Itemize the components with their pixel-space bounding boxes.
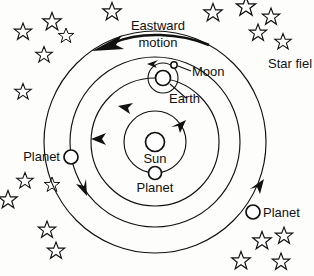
arrow-outer-left-orbit [76,179,87,196]
label-moon: Moon [192,64,225,79]
star [15,84,31,99]
star [58,28,74,42]
bodies-group [64,62,260,219]
star [272,253,289,269]
label-sun: Sun [143,151,166,166]
label-planet-inner: Planet [137,180,174,195]
star [43,13,61,30]
sun-body [146,133,165,152]
moon-leader-line [178,66,191,71]
diagram-canvas: Eastward motion Star fiel Moon Earth Sun… [0,0,314,276]
star [275,227,292,243]
planet-left-body [64,150,78,164]
labels-group: Eastward motion Star fiel Moon Earth Sun… [23,18,312,220]
star [103,2,121,19]
label-eastward: Eastward [131,18,185,33]
eastward-arrowhead [92,35,124,51]
star [14,23,31,39]
star [47,242,64,258]
planet-inner-body [149,167,162,180]
arrow-earth-orbit-upper [118,103,133,114]
label-earth: Earth [169,91,200,106]
star [17,173,33,188]
star [36,47,52,62]
star [249,24,266,40]
star [232,252,250,269]
star [236,0,255,15]
star [253,232,271,249]
planet-right-body [246,205,260,219]
label-star-field: Star fiel [268,56,312,71]
label-planet-left: Planet [23,149,60,164]
star [275,34,291,49]
star [38,221,55,237]
solar-system-diagram: Eastward motion Star fiel Moon Earth Sun… [0,0,314,276]
star [262,8,279,24]
star [0,191,17,208]
label-motion: motion [138,35,177,50]
arrow-outer-right-orbit [250,179,264,194]
arrow-earth-orbit [91,133,106,145]
earth-body [156,71,171,86]
label-planet-right: Planet [263,205,300,220]
moon-body [171,62,177,68]
star [204,3,222,20]
